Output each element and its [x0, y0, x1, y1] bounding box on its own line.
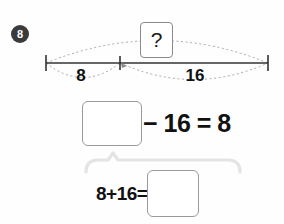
equation-row-addition: 8+16=	[96, 170, 199, 217]
worksheet-page: 8 ? 8 16 − 16 = 8 8+16=	[0, 0, 284, 224]
addition-expression-text: 8+16=	[96, 183, 147, 205]
addition-answer-box[interactable]	[147, 170, 199, 217]
